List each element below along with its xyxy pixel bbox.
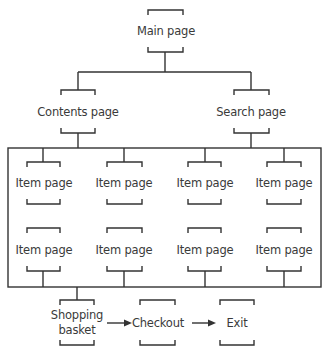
node-item-page: Item page — [177, 176, 234, 190]
node-item-page: Item page — [96, 176, 153, 190]
item-group-box — [8, 148, 321, 287]
node-item-page: Item page — [96, 243, 153, 257]
node-main-page: Main page — [137, 24, 195, 38]
search-page-bottom-bracket — [234, 128, 269, 133]
main-page-top-bracket — [148, 10, 183, 15]
arrowhead-icon — [208, 320, 216, 327]
node-item-page: Item page — [256, 176, 313, 190]
node-item-page: Item page — [256, 243, 313, 257]
node-shopping-basket-line2: basket — [59, 323, 96, 337]
search-page-top-bracket — [234, 90, 269, 95]
contents-page-top-bracket — [61, 90, 95, 95]
node-shopping-basket-line1: Shopping — [51, 308, 103, 322]
exit-bottom-bracket — [220, 340, 254, 345]
basket-top-bracket — [60, 300, 94, 305]
basket-bottom-bracket — [60, 340, 94, 345]
node-search-page: Search page — [216, 105, 286, 119]
checkout-bottom-bracket — [140, 340, 175, 345]
checkout-top-bracket — [140, 300, 175, 305]
contents-page-bottom-bracket — [61, 128, 95, 133]
node-item-page: Item page — [177, 243, 234, 257]
node-contents-page: Contents page — [37, 105, 119, 119]
arrowhead-icon — [124, 320, 132, 327]
node-checkout: Checkout — [132, 316, 184, 330]
node-exit: Exit — [227, 316, 248, 330]
exit-top-bracket — [220, 300, 254, 305]
node-item-page: Item page — [16, 176, 73, 190]
main-page-bottom-bracket — [148, 47, 183, 52]
node-item-page: Item page — [16, 243, 73, 257]
